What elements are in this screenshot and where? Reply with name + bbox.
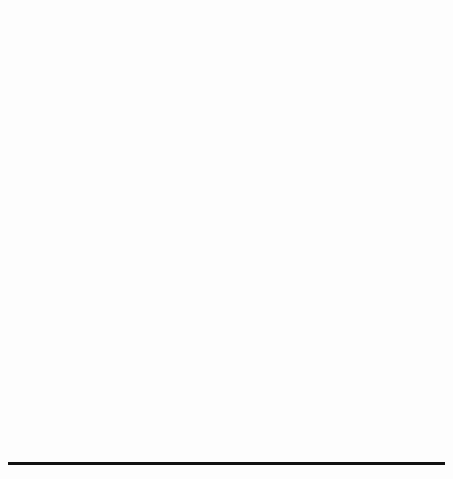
figure-container — [0, 0, 453, 479]
chart-fitness-evaluations — [0, 240, 453, 462]
chart-objective-energy-consumption — [0, 8, 453, 236]
bottom-rule-divider — [8, 462, 445, 465]
